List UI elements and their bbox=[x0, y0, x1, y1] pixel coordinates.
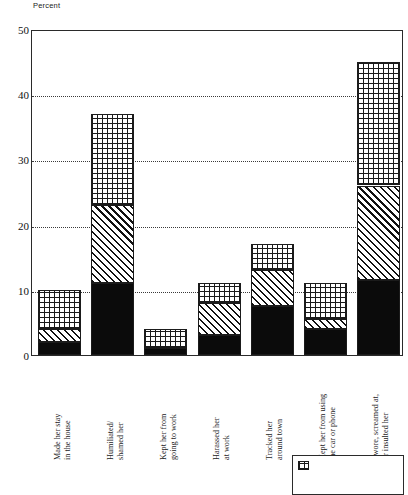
bar-4-segment-sometimes bbox=[198, 303, 241, 336]
chart-legend bbox=[292, 455, 404, 495]
bars-layer bbox=[32, 31, 402, 355]
plot-area bbox=[31, 30, 403, 356]
bar-1-segment-often bbox=[38, 342, 81, 355]
x-label-7: Swore, screamed at,or insulted her bbox=[371, 360, 385, 460]
bar-5 bbox=[251, 244, 294, 355]
bar-4 bbox=[198, 283, 241, 355]
legend-item-1 bbox=[298, 460, 398, 471]
legend-swatch-1 bbox=[298, 461, 309, 470]
bar-7-segment-rarely bbox=[357, 62, 400, 186]
x-label-5: Tracked heraround town bbox=[265, 360, 279, 460]
x-label-2: Humiliated/shamed her bbox=[106, 360, 120, 460]
bar-3-segment-often bbox=[144, 348, 187, 355]
y-tick-label-0: 0 bbox=[3, 350, 29, 362]
bar-2 bbox=[91, 114, 134, 355]
bar-4-segment-rarely bbox=[198, 283, 241, 303]
x-axis-category-labels: Made her stayin the houseHumiliated/sham… bbox=[31, 360, 403, 460]
x-label-6: Kept her from usingthe car or phone bbox=[318, 360, 332, 460]
bar-1 bbox=[38, 290, 81, 355]
bar-2-segment-rarely bbox=[91, 114, 134, 205]
bar-6-segment-often bbox=[304, 329, 347, 355]
bar-6-segment-sometimes bbox=[304, 319, 347, 329]
x-label-4: Harassed herat work bbox=[212, 360, 226, 460]
bar-6 bbox=[304, 283, 347, 355]
bar-7 bbox=[357, 62, 400, 355]
y-tick-label-20: 20 bbox=[3, 220, 29, 232]
x-label-3: Kept her fromgoing to work bbox=[159, 360, 173, 460]
bar-2-segment-often bbox=[91, 283, 134, 355]
bar-7-segment-often bbox=[357, 280, 400, 355]
bar-1-segment-sometimes bbox=[38, 329, 81, 342]
bar-3-segment-rarely bbox=[144, 329, 187, 349]
bar-4-segment-often bbox=[198, 335, 241, 355]
bar-6-segment-rarely bbox=[304, 283, 347, 319]
bar-1-segment-rarely bbox=[38, 290, 81, 329]
bar-2-segment-sometimes bbox=[91, 205, 134, 283]
y-axis-title: Percent bbox=[33, 1, 60, 10]
y-axis-tick-labels: 01020304050 bbox=[0, 30, 29, 356]
y-tick-label-50: 50 bbox=[3, 24, 29, 36]
y-tick-label-30: 30 bbox=[3, 154, 29, 166]
bar-5-segment-often bbox=[251, 306, 294, 355]
bar-5-segment-rarely bbox=[251, 244, 294, 270]
x-label-1: Made her stayin the house bbox=[53, 360, 67, 460]
bar-7-segment-sometimes bbox=[357, 186, 400, 281]
bar-3 bbox=[144, 329, 187, 355]
y-tick-label-10: 10 bbox=[3, 285, 29, 297]
bar-5-segment-sometimes bbox=[251, 270, 294, 306]
y-tick-label-40: 40 bbox=[3, 89, 29, 101]
